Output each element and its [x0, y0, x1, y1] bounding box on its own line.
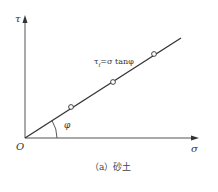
equation-rest: =σ tanφ	[100, 57, 133, 66]
equation-label: τf=σ tanφ	[94, 58, 134, 68]
x-axis-label: σ	[191, 144, 198, 154]
angle-label: φ	[64, 121, 70, 130]
strength-envelope-line	[25, 38, 181, 138]
angle-arc	[52, 121, 57, 138]
origin-label: O	[16, 142, 24, 152]
data-point	[111, 80, 116, 85]
x-axis-arrow-icon	[191, 136, 199, 141]
y-axis-label: τ	[15, 14, 21, 24]
figure-caption: （a）砂土	[90, 163, 131, 172]
data-point	[69, 105, 74, 110]
data-point	[152, 52, 157, 57]
y-axis-arrow-icon	[23, 15, 28, 23]
